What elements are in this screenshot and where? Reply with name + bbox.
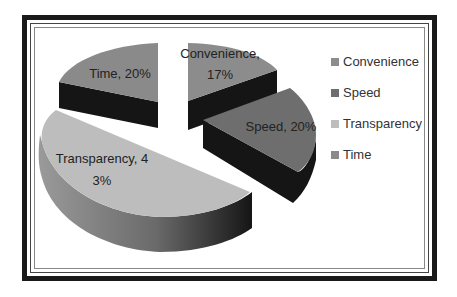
label-time: Time, 20%: [89, 66, 151, 81]
label-convenience-line2: 17%: [207, 67, 233, 82]
legend-label: Speed: [343, 85, 381, 100]
slice-time: [59, 43, 158, 128]
legend-label: Transparency: [343, 116, 422, 131]
chart-legend: Convenience Speed Transparency Time: [331, 46, 422, 170]
legend-item-time: Time: [331, 139, 422, 170]
label-speed: Speed, 20%: [246, 119, 317, 134]
label-convenience-line1: Convenience,: [180, 46, 260, 61]
label-transparency-line1: Transparency, 4: [56, 151, 149, 166]
legend-swatch-speed: [331, 89, 339, 97]
legend-swatch-time: [331, 151, 339, 159]
legend-swatch-convenience: [331, 58, 339, 66]
legend-swatch-transparency: [331, 120, 339, 128]
legend-item-convenience: Convenience: [331, 46, 422, 77]
legend-label: Time: [343, 147, 371, 162]
legend-label: Convenience: [343, 54, 419, 69]
legend-item-speed: Speed: [331, 77, 422, 108]
legend-item-transparency: Transparency: [331, 108, 422, 139]
label-transparency-line2: 3%: [93, 173, 112, 188]
